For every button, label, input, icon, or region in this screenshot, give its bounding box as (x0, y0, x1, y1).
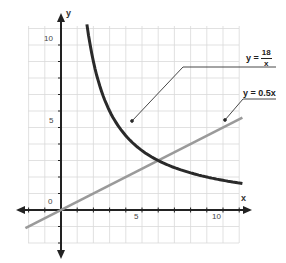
hyperbola-equation-label: y =18x (246, 49, 272, 68)
coordinate-plane (0, 0, 286, 263)
x-axis-arrow-right (243, 206, 252, 214)
x-tick-label-10: 10 (212, 212, 221, 221)
fraction-numerator: 18 (261, 49, 272, 59)
y-tick-label-10: 10 (44, 34, 53, 43)
axes (16, 13, 252, 259)
origin-label: 0 (48, 197, 52, 206)
y-axis-label: y (66, 8, 71, 18)
curve-y-equals-18-over-x (87, 24, 243, 183)
fraction-denominator: x (264, 59, 268, 68)
fraction: 18x (261, 49, 272, 68)
x-tick-label-5: 5 (134, 212, 138, 221)
y-tick-label-5: 5 (49, 116, 53, 125)
x-axis-label: x (241, 193, 246, 203)
hyperbola-equation-lhs: y = (246, 53, 259, 63)
line-leader-dot (224, 119, 227, 122)
hyperbola-leader-dot (131, 120, 134, 123)
y-axis-arrow-down (57, 250, 65, 259)
line-leader-line (225, 99, 276, 120)
y-axis-arrow-up (57, 13, 65, 22)
line-equation-label: y = 0.5x (243, 88, 276, 98)
x-axis-arrow-left (16, 206, 25, 214)
